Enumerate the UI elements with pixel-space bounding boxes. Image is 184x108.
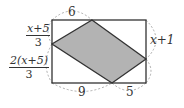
arc-right-lower: [146, 59, 151, 83]
label-left-lower: 2(x+5) 3: [9, 55, 49, 80]
label-top-left: 6: [68, 6, 76, 18]
shaded-parallelogram: [52, 20, 146, 83]
label-bottom-left: 9: [78, 86, 86, 98]
label-left-lower-denominator: 3: [9, 68, 49, 80]
label-left-upper-numerator: x+5: [26, 23, 50, 36]
label-left-upper-denominator: 3: [26, 36, 50, 48]
label-left-lower-numerator: 2(x+5): [9, 55, 49, 68]
label-left-upper: x+5 3: [26, 23, 50, 48]
label-right-upper: x+1: [150, 34, 174, 46]
label-bottom-right: 5: [126, 86, 134, 98]
